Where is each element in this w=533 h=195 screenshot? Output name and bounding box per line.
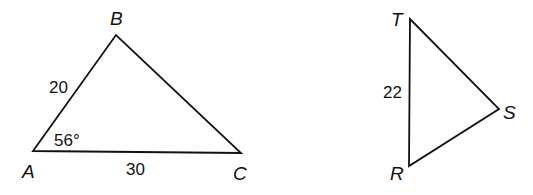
vertex-label-r: R	[390, 163, 404, 184]
vertex-label-t: T	[391, 9, 404, 30]
triangle-trs-shape	[409, 19, 499, 166]
triangle-abc: B A C 20 56° 30	[21, 8, 247, 184]
vertex-label-s: S	[503, 102, 516, 123]
angle-a-measure: 56°	[54, 131, 80, 150]
side-length-ab: 20	[49, 78, 68, 97]
vertex-label-a: A	[21, 161, 35, 182]
triangle-trs: T R S 22	[383, 9, 516, 184]
side-length-ac: 30	[126, 160, 145, 179]
vertex-label-c: C	[233, 163, 247, 184]
vertex-label-b: B	[110, 8, 123, 29]
diagram-canvas: B A C 20 56° 30 T R S 22	[0, 0, 533, 195]
side-length-tr: 22	[383, 83, 402, 102]
